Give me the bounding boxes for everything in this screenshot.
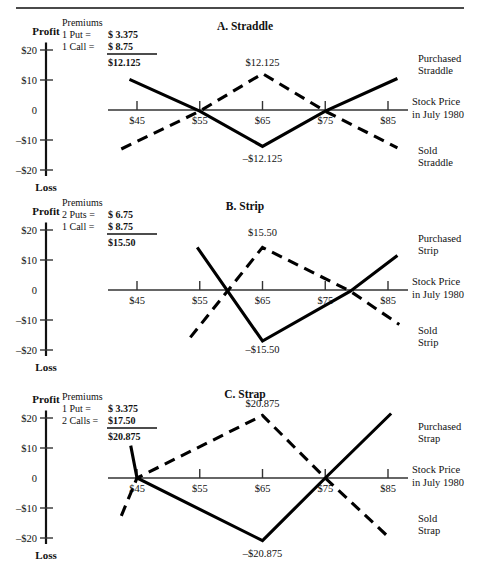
y-tick-label: –$20 <box>15 533 37 544</box>
loss-axis-label: Loss <box>35 549 57 561</box>
figure-page: $20$100–$10–$20$45$55$65$75$85ProfitLoss… <box>0 0 480 588</box>
y-tick-label: 0 <box>32 473 37 484</box>
x-tick-label: $85 <box>380 483 396 494</box>
y-tick-label: $20 <box>21 413 37 424</box>
value-annotation: –$20.875 <box>242 548 282 559</box>
series-label-sold-line2: Strap <box>418 525 440 536</box>
chart-body-3: $20$100–$10–$20$45$55$65$75$85ProfitLoss… <box>15 388 464 561</box>
premium-row-label: 2 Calls = <box>62 415 99 426</box>
premium-row-value: $ 3.375 <box>108 403 138 414</box>
x-tick-label: $65 <box>255 483 271 494</box>
premium-row-label: 1 Put = <box>62 403 91 414</box>
series-label-purchased-line2: Strap <box>418 433 440 444</box>
series-line-solid <box>131 414 391 541</box>
profit-axis-label: Profit <box>32 393 60 405</box>
x-axis-caption-line2: in July 1980 <box>412 477 464 488</box>
premiums-heading: Premiums <box>62 391 103 402</box>
premium-row-value: $17.50 <box>108 415 136 426</box>
chart-3: $20$100–$10–$20$45$55$65$75$85ProfitLoss… <box>0 0 480 588</box>
value-annotation: $20.875 <box>245 398 279 409</box>
y-tick-label: –$10 <box>15 503 37 514</box>
x-axis-caption-line1: Stock Price <box>412 464 460 475</box>
y-tick-label: $10 <box>21 443 37 454</box>
series-label-purchased-line1: Purchased <box>418 421 462 432</box>
premiums-total: $20.875 <box>108 431 141 442</box>
series-label-sold-line1: Sold <box>418 513 438 524</box>
x-tick-label: $55 <box>192 483 208 494</box>
